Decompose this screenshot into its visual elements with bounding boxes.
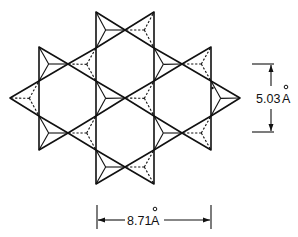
- tetrahedron-r2-a: [39, 47, 68, 81]
- tetrahedron-top-right: [125, 12, 154, 48]
- tetrahedra-layer: [10, 12, 240, 184]
- tetrahedron-center-right: [125, 81, 154, 116]
- horizontal-dimension: 8.71 A: [97, 205, 211, 229]
- tetrahedron-top-left: [96, 12, 125, 48]
- tetrahedron-r4-a: [39, 116, 68, 150]
- tetrahedron-bottom-left: [96, 150, 125, 184]
- tetrahedron-r2-b: [68, 48, 96, 81]
- tetrahedron-r4-b: [68, 116, 96, 150]
- tetrahedron-left-tip: [10, 81, 39, 116]
- vertical-dimension: 5.03 A: [252, 64, 291, 132]
- angstrom-ring: [284, 85, 288, 89]
- vertical-dimension-value: 5.03: [256, 92, 280, 106]
- vertical-dimension-unit: A: [282, 92, 291, 106]
- small-dot: [211, 87, 213, 89]
- tetrahedron-r2-d: [182, 47, 211, 81]
- horizontal-dimension-unit: A: [151, 214, 160, 228]
- tetrahedron-bottom-right: [125, 150, 154, 184]
- angstrom-ring: [153, 207, 157, 211]
- tetrahedron-r4-c: [154, 116, 182, 150]
- tetrahedron-r4-d: [182, 116, 211, 150]
- arrow-down-icon: [269, 124, 274, 131]
- tetrahedron-right-tip: [211, 81, 240, 116]
- tetrahedra-network-diagram: 5.03 A 8.71 A: [0, 0, 298, 237]
- arrow-right-icon: [203, 218, 210, 223]
- horizontal-dimension-value: 8.71: [127, 214, 151, 228]
- arrow-left-icon: [98, 218, 105, 223]
- tetrahedron-r2-c: [154, 48, 182, 81]
- arrow-up-icon: [269, 65, 274, 72]
- tetrahedron-center-left: [96, 81, 125, 116]
